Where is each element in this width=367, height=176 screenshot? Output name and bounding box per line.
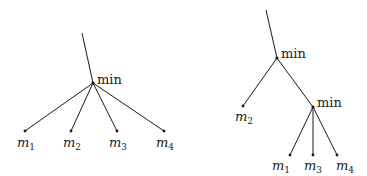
leaf-label-m4: m4 <box>336 158 354 175</box>
edge-m4 <box>313 107 337 155</box>
leaf-node <box>289 154 292 157</box>
root-edge <box>266 10 277 58</box>
leaf-node <box>70 130 73 133</box>
leaf-node <box>24 130 27 133</box>
min-label: min <box>97 72 122 87</box>
leaf-node <box>163 130 166 133</box>
min-node <box>275 56 278 59</box>
inner-min-label: min <box>317 95 342 110</box>
leaf-node <box>116 130 119 133</box>
leaf-label-m2: m2 <box>63 135 81 152</box>
inner-min-node <box>311 105 314 108</box>
leaf-label-m1: m1 <box>272 158 290 175</box>
min-node <box>91 81 94 84</box>
edge-m1 <box>290 107 313 155</box>
min-label: min <box>281 46 306 61</box>
edge-m4 <box>93 83 164 131</box>
right-tree: min min m2 m1 m3 m4 <box>235 10 354 175</box>
leaf-label-m3: m3 <box>304 158 322 175</box>
leaf-label-m4: m4 <box>156 135 174 152</box>
leaf-node <box>312 154 315 157</box>
edge-m2 <box>243 58 277 106</box>
leaf-node <box>336 154 339 157</box>
edge-inner-min <box>277 58 313 107</box>
edge-m3 <box>93 83 117 131</box>
edge-m1 <box>25 83 93 131</box>
leaf-label-m2: m2 <box>235 109 253 126</box>
leaf-node <box>242 105 245 108</box>
left-tree: min m1 m2 m3 m4 <box>17 33 174 152</box>
leaf-label-m3: m3 <box>109 135 127 152</box>
tree-diagrams: min m1 m2 m3 m4 min min m2 m1 m3 m4 <box>0 0 367 176</box>
leaf-label-m1: m1 <box>17 135 35 152</box>
root-edge <box>82 33 93 83</box>
